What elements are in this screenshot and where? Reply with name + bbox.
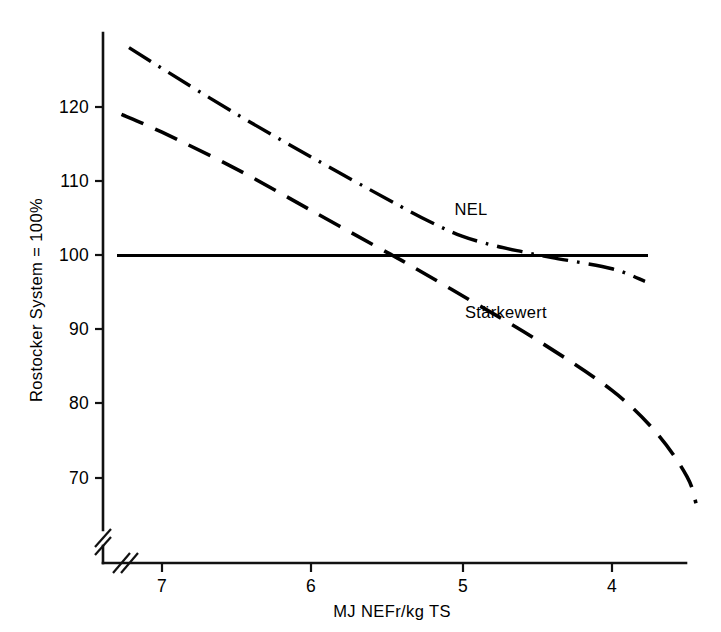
y-tick-label-100: 100: [59, 245, 89, 265]
y-axis-title: Rostocker System = 100%: [27, 198, 45, 402]
series-line-nel: [129, 48, 645, 282]
chart-figure: 120 110 100 90 80 70 7 6 5 4 Rostocker S…: [0, 0, 721, 632]
x-tick-label-5: 5: [458, 576, 468, 596]
series-line-staerkewert: [122, 114, 697, 503]
y-tick-label-90: 90: [69, 319, 89, 339]
x-axis-title: MJ NEFr/kg TS: [333, 602, 451, 620]
chart-svg: 120 110 100 90 80 70 7 6 5 4 Rostocker S…: [0, 0, 721, 632]
x-tick-label-7: 7: [157, 576, 167, 596]
y-tick-label-70: 70: [69, 468, 89, 488]
x-tick-label-4: 4: [607, 576, 617, 596]
y-tick-label-80: 80: [69, 393, 89, 413]
series-label-nel: NEL: [455, 200, 488, 218]
y-tick-label-120: 120: [59, 97, 89, 117]
x-tick-label-6: 6: [306, 576, 316, 596]
series-label-staerkewert: Stärkewert: [465, 303, 547, 321]
x-tick-marks: [162, 563, 612, 572]
y-tick-label-110: 110: [60, 171, 89, 191]
